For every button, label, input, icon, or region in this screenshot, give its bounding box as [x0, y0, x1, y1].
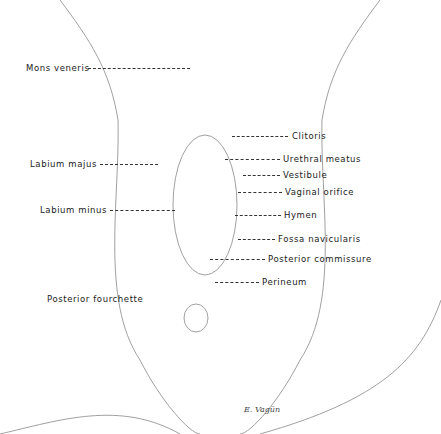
leader-line — [100, 164, 158, 165]
leader-line — [238, 239, 275, 240]
label-vaginal-orifice: Vaginal orifice — [285, 187, 354, 197]
leader-line — [238, 192, 282, 193]
label-hymen: Hymen — [284, 210, 317, 220]
leader-line — [215, 282, 259, 283]
label-urethral-meatus: Urethral meatus — [283, 154, 361, 164]
label-vestibule: Vestibule — [283, 170, 327, 180]
label-labium-minus: Labium minus — [40, 205, 107, 215]
label-clitoris: Clitoris — [292, 131, 326, 141]
label-posterior-commissure: Posterior commissure — [268, 254, 372, 264]
leader-line — [88, 68, 190, 69]
label-mons-veneris: Mons veneris — [26, 63, 89, 73]
label-labium-majus: Labium majus — [30, 159, 97, 169]
leader-line — [225, 159, 280, 160]
leader-line — [235, 215, 281, 216]
label-fossa-navicularis: Fossa navicularis — [278, 234, 361, 244]
leader-line — [210, 259, 265, 260]
leader-line — [232, 136, 288, 137]
leader-line — [243, 175, 280, 176]
label-posterior-fourchette: Posterior fourchette — [47, 294, 143, 304]
label-perineum: Perineum — [262, 277, 307, 287]
leader-line — [110, 210, 175, 211]
artist-signature: E. Vagün — [244, 405, 280, 414]
